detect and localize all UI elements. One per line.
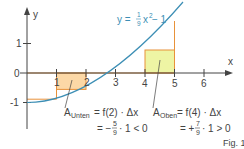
y-axis-arrow-icon — [24, 7, 30, 15]
svg-text:= f(2) · Δx: = f(2) · Δx — [94, 107, 138, 118]
x-axis-label: x — [228, 56, 233, 67]
svg-text:x: x — [143, 14, 148, 25]
svg-text:· 1 > 0: · 1 > 0 — [202, 123, 231, 134]
svg-text:· 1 < 0: · 1 < 0 — [119, 123, 148, 134]
riemann-diagram: y x 0 1 -1 1 2 3 4 5 6 y = 1 9 x 2 − 1 A… — [0, 0, 244, 149]
x-tick-3: 3 — [113, 77, 119, 88]
svg-text:= f(4) · Δx: = f(4) · Δx — [177, 107, 221, 118]
svg-text:9: 9 — [113, 129, 117, 136]
svg-text:Unten: Unten — [71, 112, 90, 119]
svg-text:y =: y = — [117, 14, 131, 25]
figure-caption: Fig. 1 — [223, 138, 244, 148]
svg-text:Oben: Oben — [160, 112, 177, 119]
svg-text:− 1: − 1 — [152, 14, 167, 25]
curve-equation: y = 1 9 x 2 − 1 — [117, 11, 167, 27]
svg-text:A: A — [64, 107, 71, 118]
x-tick-6: 6 — [201, 78, 207, 89]
svg-text:9: 9 — [137, 20, 141, 27]
svg-text:9: 9 — [196, 129, 200, 136]
y-axis-label: y — [33, 9, 38, 20]
y-tick-neg1: -1 — [10, 97, 19, 108]
upper-area-annotation: A Oben = f(4) · Δx = + 7 9 · 1 > 0 — [153, 107, 231, 136]
y-tick-1: 1 — [16, 38, 22, 49]
x-tick-4: 4 — [142, 78, 148, 89]
svg-text:5: 5 — [113, 120, 117, 127]
lower-area-annotation: A Unten = f(2) · Δx = − 5 9 · 1 < 0 — [64, 107, 148, 136]
origin-label: 0 — [14, 68, 20, 79]
svg-text:= −: = − — [97, 123, 112, 134]
x-tick-1: 1 — [54, 77, 60, 88]
x-tick-2: 2 — [84, 77, 90, 88]
x-axis-arrow-icon — [225, 70, 233, 76]
svg-text:1: 1 — [137, 11, 141, 18]
lower-rectangle — [57, 73, 87, 89]
svg-text:= +: = + — [180, 123, 195, 134]
svg-text:A: A — [153, 107, 160, 118]
svg-text:7: 7 — [196, 120, 200, 127]
x-tick-5: 5 — [172, 78, 178, 89]
